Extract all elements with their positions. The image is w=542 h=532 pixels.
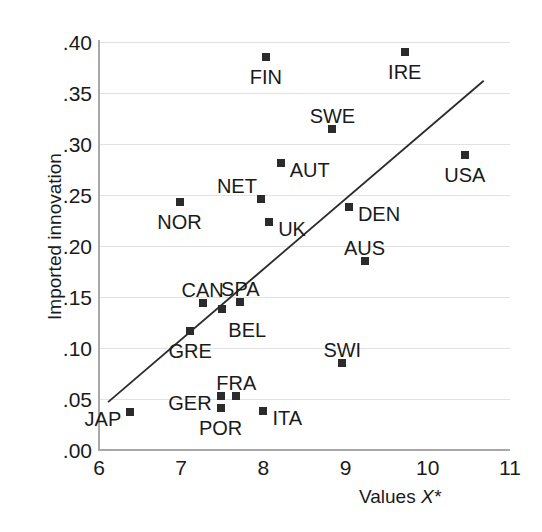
data-point-ire[interactable] bbox=[401, 48, 409, 56]
gridline bbox=[99, 348, 510, 349]
x-tick-label: 10 bbox=[403, 456, 453, 480]
point-label-net: NET bbox=[217, 176, 257, 196]
point-label-swe: SWE bbox=[310, 106, 356, 126]
point-label-ger: GER bbox=[168, 393, 211, 413]
point-label-uk: UK bbox=[278, 219, 306, 239]
gridline bbox=[99, 144, 510, 145]
data-point-por[interactable] bbox=[217, 404, 225, 412]
point-label-fin: FIN bbox=[250, 67, 282, 87]
x-tick-label: 8 bbox=[238, 456, 288, 480]
y-tick-label: .40 bbox=[32, 32, 92, 53]
x-tick-label: 11 bbox=[485, 456, 535, 480]
data-point-usa[interactable] bbox=[461, 151, 469, 159]
gridline bbox=[99, 297, 510, 298]
point-label-por: POR bbox=[199, 418, 242, 438]
data-point-uk[interactable] bbox=[265, 218, 273, 226]
data-point-ita[interactable] bbox=[259, 407, 267, 415]
data-point-gre[interactable] bbox=[186, 327, 194, 335]
data-point-nor[interactable] bbox=[176, 198, 184, 206]
point-label-ire: IRE bbox=[388, 62, 421, 82]
x-axis-line bbox=[98, 449, 510, 451]
data-point-bel[interactable] bbox=[218, 305, 226, 313]
x-axis-title-text: Values bbox=[359, 486, 421, 507]
gridline bbox=[99, 93, 510, 94]
gridline bbox=[99, 246, 510, 247]
y-axis-title: Imported innovation bbox=[45, 87, 64, 387]
x-tick-label: 9 bbox=[321, 456, 371, 480]
x-tick-label: 7 bbox=[156, 456, 206, 480]
x-axis-title: Values X* bbox=[300, 487, 500, 506]
y-tick-label: .05 bbox=[32, 389, 92, 410]
point-label-usa: USA bbox=[444, 165, 485, 185]
point-label-nor: NOR bbox=[157, 212, 201, 232]
point-label-den: DEN bbox=[358, 204, 400, 224]
gridline bbox=[99, 42, 510, 43]
point-label-spa: SPA bbox=[221, 279, 260, 299]
scatter-plot-figure: .00.05.10.15.20.25.30.35.40 Imported inn… bbox=[0, 0, 542, 532]
point-label-aut: AUT bbox=[290, 160, 330, 180]
gridline bbox=[99, 399, 510, 400]
y-axis-line bbox=[98, 40, 100, 451]
data-point-net[interactable] bbox=[257, 195, 265, 203]
data-point-den[interactable] bbox=[345, 203, 353, 211]
point-label-jap: JAP bbox=[85, 409, 122, 429]
point-label-can: CAN bbox=[181, 280, 223, 300]
point-label-gre: GRE bbox=[169, 341, 212, 361]
x-axis-title-symbol: X* bbox=[421, 486, 441, 507]
point-label-aus: AUS bbox=[344, 238, 385, 258]
data-point-jap[interactable] bbox=[126, 408, 134, 416]
point-label-bel: BEL bbox=[228, 320, 266, 340]
point-label-ita: ITA bbox=[272, 408, 302, 428]
data-point-fin[interactable] bbox=[262, 53, 270, 61]
point-label-swi: SWI bbox=[323, 340, 361, 360]
data-point-aut[interactable] bbox=[277, 159, 285, 167]
gridline bbox=[99, 195, 510, 196]
point-label-fra: FRA bbox=[216, 373, 256, 393]
x-tick-label: 6 bbox=[74, 456, 124, 480]
